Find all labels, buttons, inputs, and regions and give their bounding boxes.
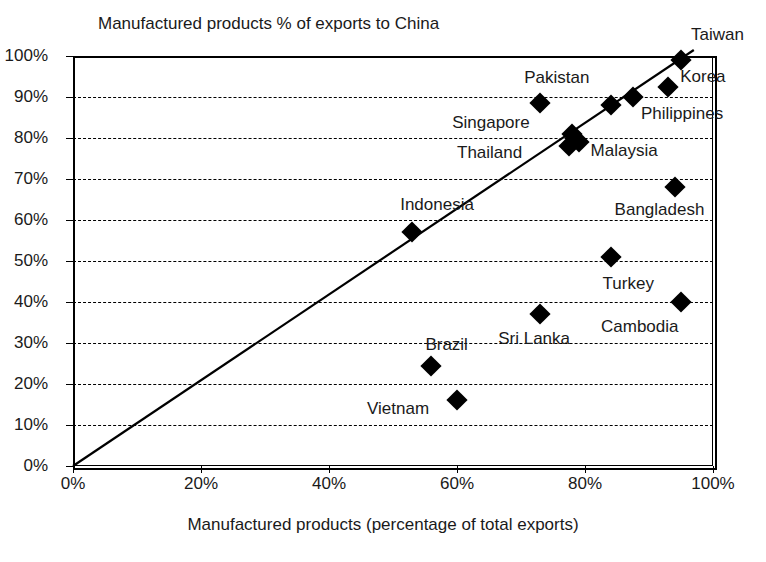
chart-title: Manufactured products % of exports to Ch… <box>98 14 439 34</box>
data-point-label: Korea <box>680 67 725 87</box>
data-point-label: Sri Lanka <box>498 329 570 349</box>
y-tick-mark <box>66 261 73 262</box>
y-tick-mark <box>66 425 73 426</box>
data-point-label: Cambodia <box>601 317 679 337</box>
y-tick-mark <box>66 179 73 180</box>
y-tick-mark <box>66 97 73 98</box>
x-tick-label: 100% <box>691 474 734 494</box>
y-tick-mark <box>66 384 73 385</box>
data-point-label: Brazil <box>425 335 468 355</box>
data-point-label: Turkey <box>603 274 654 294</box>
data-point-label: Malaysia <box>591 141 658 161</box>
y-tick-mark <box>66 466 73 467</box>
data-point-label: Singapore <box>452 113 530 133</box>
y-tick-label: 10% <box>14 415 48 435</box>
y-tick-label: 20% <box>14 374 48 394</box>
y-tick-label: 90% <box>14 87 48 107</box>
x-tick-label: 60% <box>440 474 474 494</box>
data-point-label: Taiwan <box>691 25 744 45</box>
x-axis-title: Manufactured products (percentage of tot… <box>0 515 766 535</box>
data-point-label: Vietnam <box>367 399 429 419</box>
y-tick-label: 100% <box>5 46 48 66</box>
data-point-label: Pakistan <box>524 68 589 88</box>
y-tick-label: 50% <box>14 251 48 271</box>
data-point-label: Philippines <box>641 104 723 124</box>
x-tick-label: 20% <box>184 474 218 494</box>
data-point-label: Indonesia <box>400 195 474 215</box>
y-tick-mark <box>66 343 73 344</box>
y-tick-mark <box>66 302 73 303</box>
y-tick-label: 60% <box>14 210 48 230</box>
y-tick-label: 0% <box>23 456 48 476</box>
data-point-label: Bangladesh <box>615 200 705 220</box>
x-tick-label: 80% <box>568 474 602 494</box>
y-tick-mark <box>66 56 73 57</box>
data-point-label: Thailand <box>457 143 522 163</box>
y-tick-label: 70% <box>14 169 48 189</box>
x-tick-label: 40% <box>312 474 346 494</box>
y-tick-label: 40% <box>14 292 48 312</box>
y-tick-label: 30% <box>14 333 48 353</box>
chart-figure: Manufactured products % of exports to Ch… <box>0 0 766 562</box>
y-tick-mark <box>66 138 73 139</box>
y-tick-mark <box>66 220 73 221</box>
x-tick-label: 0% <box>61 474 86 494</box>
y-tick-label: 80% <box>14 128 48 148</box>
